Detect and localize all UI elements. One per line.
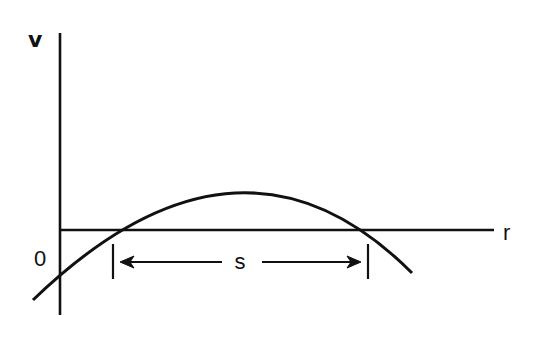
origin-label: 0 <box>34 246 46 271</box>
y-axis-label: v <box>28 27 43 52</box>
x-axis-label: r <box>503 220 510 245</box>
span-label: s <box>235 249 246 274</box>
potential-curve <box>33 193 412 300</box>
potential-diagram: v r 0 s <box>0 0 539 338</box>
